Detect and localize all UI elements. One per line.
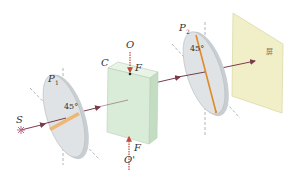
- beam-source-to-p1: [21, 124, 45, 130]
- force-top-point: [129, 73, 132, 76]
- electrode-bottom-label: O': [124, 154, 135, 165]
- p2-subscript: 2: [186, 28, 190, 35]
- p1-angle-label: 45°: [64, 102, 78, 111]
- polarizer-p1: P 1 45°: [30, 68, 100, 165]
- star-icon: [17, 126, 25, 134]
- cell-front-face: [107, 68, 150, 144]
- force-bottom-label: F: [133, 142, 142, 153]
- force-top-label: F: [134, 62, 143, 73]
- p1-label: P: [47, 73, 55, 84]
- p1-subscript: 1: [55, 79, 59, 86]
- p2-label: P: [178, 22, 186, 33]
- screen: 屏: [232, 13, 283, 113]
- kerr-cell-diagram: 屏 P 2 45° C O F: [0, 0, 289, 182]
- optics-figure: 屏 P 2 45° C O F: [0, 0, 289, 182]
- screen-label: 屏: [266, 48, 273, 56]
- cell-label: C: [101, 57, 109, 68]
- polarizer-p2: P 2 45°: [172, 22, 240, 136]
- electrode-top-label: O: [126, 39, 134, 50]
- light-source: S: [16, 114, 25, 134]
- cell-side-face: [149, 72, 158, 144]
- p2-angle-label: 45°: [190, 44, 204, 53]
- source-label: S: [16, 114, 23, 125]
